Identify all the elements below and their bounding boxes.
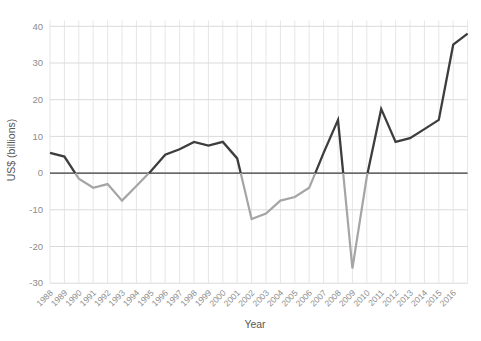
line-chart-svg: 403020100-10-20-30 198819891990199119921…	[0, 0, 481, 341]
y-tick-label: -10	[29, 204, 43, 215]
line-segment-negative	[343, 173, 367, 268]
horizontal-gridlines	[50, 26, 468, 283]
y-tick-label: 20	[32, 94, 43, 105]
line-segment-positive	[368, 34, 468, 174]
y-tick-label: 10	[32, 131, 43, 142]
y-axis-title: US$ (billions)	[5, 119, 17, 181]
line-segment-positive	[315, 120, 343, 173]
line-segment-positive	[149, 142, 241, 173]
line-segment-negative	[75, 173, 149, 201]
y-tick-label: 0	[38, 167, 43, 178]
x-tick-label: 2016	[438, 288, 459, 309]
x-tick-labels: 1988198919901991199219931994199519961997…	[34, 288, 458, 309]
y-tick-label: -30	[29, 277, 43, 288]
line-segment-positive	[50, 153, 75, 173]
line-chart-figure: 403020100-10-20-30 198819891990199119921…	[0, 0, 481, 341]
vertical-gridlines	[50, 21, 468, 284]
y-tick-label: -20	[29, 241, 43, 252]
y-tick-label: 30	[32, 57, 43, 68]
data-line	[50, 34, 468, 269]
x-axis-title: Year	[244, 318, 266, 330]
y-tick-label: 40	[32, 21, 43, 32]
y-tick-labels: 403020100-10-20-30	[29, 21, 43, 289]
